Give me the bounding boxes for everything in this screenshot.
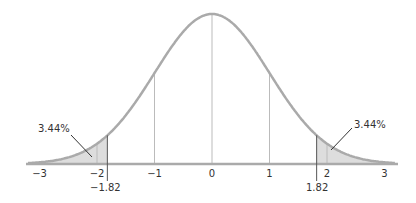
left-critical-value-label: −1.82 [90,182,121,193]
svg-text:−1: −1 [147,168,162,179]
normal-distribution-chart: −3−2−10123 3.44% 3.44% −1.82 1.82 [0,0,416,203]
svg-text:1: 1 [266,168,272,179]
svg-text:0: 0 [209,168,215,179]
right-annotation-leader [331,128,352,150]
svg-text:−3: −3 [32,168,47,179]
right-tail-percentage: 3.44% [354,119,386,130]
right-tail-shading [317,135,396,164]
svg-text:2: 2 [324,168,330,179]
left-tail-percentage: 3.44% [38,123,70,134]
svg-text:3: 3 [381,168,387,179]
left-tail-shading [34,135,108,164]
right-critical-value-label: 1.82 [306,182,328,193]
x-tick-labels: −3−2−10123 [32,168,388,179]
svg-text:−2: −2 [90,168,105,179]
reference-lines [97,14,327,164]
